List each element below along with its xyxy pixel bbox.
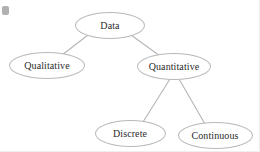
node-continuous[interactable]: Continuous <box>178 122 253 149</box>
node-label-continuous: Continuous <box>191 130 238 141</box>
edge-quantitative-discrete <box>143 79 170 122</box>
node-label-quantitative: Quantitative <box>149 61 200 72</box>
node-discrete[interactable]: Discrete <box>95 120 166 147</box>
node-label-data: Data <box>100 20 119 31</box>
edges-group <box>62 35 205 124</box>
node-label-qualitative: Qualitative <box>24 60 70 71</box>
node-quantitative[interactable]: Quantitative <box>137 53 211 80</box>
node-data[interactable]: Data <box>75 12 145 39</box>
edge-data-quantitative <box>131 35 160 56</box>
diagram-canvas: DataQualitativeQuantitativeDiscreteConti… <box>0 0 260 152</box>
edge-data-qualitative <box>62 35 88 55</box>
node-label-discrete: Discrete <box>113 128 147 139</box>
edge-quantitative-continuous <box>179 79 205 124</box>
node-qualitative[interactable]: Qualitative <box>9 52 85 79</box>
